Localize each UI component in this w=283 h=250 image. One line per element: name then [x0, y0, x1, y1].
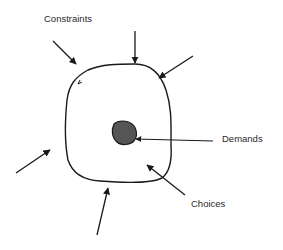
demands-core-blob	[112, 121, 136, 145]
constraints-label: Constraints	[44, 14, 92, 24]
constraint-arrow-top-right	[159, 56, 193, 78]
diagram-svg	[0, 0, 283, 250]
constraint-arrow-bottom	[97, 188, 108, 235]
loop-tick-mark	[78, 80, 82, 84]
constraint-arrow-top-left	[53, 41, 76, 64]
demands-constraints-choices-diagram: Constraints Demands Choices	[0, 0, 283, 250]
demands-label: Demands	[222, 134, 263, 144]
choices-label: Choices	[191, 199, 225, 209]
constraint-arrow-left	[16, 150, 50, 173]
choices-arrow	[147, 165, 185, 195]
demands-arrow	[136, 139, 213, 141]
